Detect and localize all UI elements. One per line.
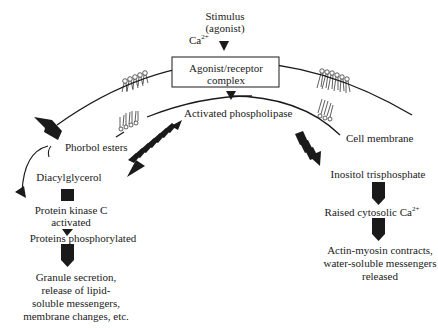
stimulus-arrow-icon [219, 41, 229, 51]
phorbol-entry-arrow-icon [34, 117, 62, 140]
raised-ca-label: Raised cytosolic Ca2+ [325, 206, 420, 218]
lipid-bilayer-icon-inner-right [318, 99, 333, 121]
activated-phospholipase-label: Activated phospholipase [184, 107, 292, 119]
ip3-chevron-arrow-icon [295, 131, 321, 166]
agonist-text: (agonist) [205, 22, 244, 34]
receptor-line1: Agonist/receptor [189, 62, 263, 74]
left-outcome-line4: membrane changes, etc. [23, 310, 129, 323]
phorbol-bracket [48, 146, 51, 157]
inner-membrane-dash [116, 132, 124, 137]
ip3-label: Inositol trisphosphate [330, 168, 425, 180]
calcium-label: Ca2+ [189, 34, 209, 46]
proteins-to-granule-arrow-icon [61, 244, 74, 267]
signal-pathway-diagram: Stimulus (agonist) Ca2+ Agonist/receptor… [0, 0, 438, 328]
lipid-bilayer-icon-outer-left [122, 71, 148, 92]
stimulus-text: Stimulus [205, 10, 244, 22]
pkc-line2: activated [35, 216, 108, 228]
lipid-bilayer-icon-inner-left [119, 111, 138, 131]
left-outcome-label: Granule secretion, release of lipid- sol… [23, 271, 129, 323]
right-outcome-line3: released [323, 270, 436, 283]
phorbol-esters-label: Phorbol esters [65, 141, 128, 153]
phorbol-curved-arrow-head-icon [15, 186, 26, 198]
receptor-box-label: Agonist/receptor complex [189, 62, 263, 86]
left-outcome-line3: soluble messengers, [23, 297, 129, 310]
ca-to-actin-arrow-icon [372, 218, 385, 241]
lipid-bilayer-icon-outer-right [317, 69, 350, 93]
phorbol-curved-arrow-line [22, 146, 48, 192]
proteins-phosphorylated-label: Proteins phosphorylated [30, 232, 137, 244]
right-outcome-label: Actin-myosin contracts, water-soluble me… [323, 244, 436, 283]
right-outcome-line1: Actin-myosin contracts, [323, 244, 436, 257]
pkc-line1: Protein kinase C [35, 204, 108, 216]
stimulus-label: Stimulus (agonist) [205, 10, 244, 34]
left-outcome-line1: Granule secretion, [23, 271, 129, 284]
diacylglycerol-label: Diacylglycerol [36, 171, 101, 183]
ip3-to-ca-arrow-icon [372, 182, 385, 205]
dag-to-pkc-arrow-icon [61, 189, 74, 201]
left-outcome-line2: release of lipid- [23, 284, 129, 297]
cell-membrane-label: Cell membrane [346, 132, 414, 144]
right-outcome-line2: water-soluble messengers [323, 257, 436, 270]
dag-chevron-arrow-icon [127, 120, 182, 177]
pkc-label: Protein kinase C activated [35, 204, 108, 228]
receptor-line2: complex [189, 74, 263, 86]
